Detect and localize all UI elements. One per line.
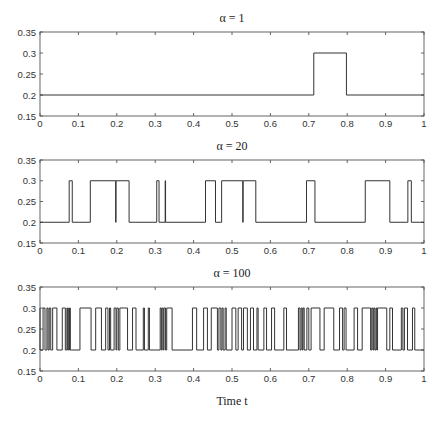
y-tick-label: 0.3 [23,48,36,59]
figure: α = 100.10.20.30.40.50.60.70.80.910.150.… [0,0,442,424]
x-tick-label: 0.2 [110,373,123,384]
panel-alpha-100: α = 10000.10.20.30.40.50.60.70.80.910.15… [18,266,427,384]
y-tick-label: 0.2 [23,90,36,101]
x-tick-label: 0.8 [341,118,354,129]
y-tick-label: 0.15 [18,238,37,249]
y-tick-label: 0.3 [23,175,36,186]
plot-frame [40,160,424,243]
x-tick-label: 0.9 [379,373,392,384]
x-tick-label: 0 [37,373,42,384]
x-tick-label: 0 [37,245,42,256]
x-tick-label: 0 [37,118,42,129]
x-tick-label: 0.4 [187,373,200,384]
x-tick-label: 0.8 [341,245,354,256]
y-tick-label: 0.15 [18,111,37,122]
x-tick-label: 0.5 [225,118,238,129]
x-axis-label: Time t [216,394,248,408]
x-tick-label: 0.1 [72,373,85,384]
step-signal-trace [40,53,424,95]
step-signal-trace [40,308,424,350]
x-tick-label: 0.4 [187,118,200,129]
y-tick-label: 0.25 [18,69,37,80]
x-tick-label: 0.4 [187,245,200,256]
x-tick-label: 0.3 [149,118,162,129]
plot-frame [40,32,424,116]
x-tick-label: 1 [421,118,426,129]
panel-title: α = 1 [219,11,244,25]
x-tick-label: 0.7 [302,118,315,129]
x-tick-label: 0.7 [302,245,315,256]
x-tick-label: 0.1 [72,245,85,256]
x-tick-label: 0.5 [225,373,238,384]
y-tick-label: 0.2 [23,345,36,356]
step-signal-trace [40,181,424,223]
x-tick-label: 0.9 [379,118,392,129]
y-tick-label: 0.2 [23,217,36,228]
y-tick-label: 0.25 [18,324,37,335]
x-tick-label: 0.2 [110,245,123,256]
panel-alpha-1: α = 100.10.20.30.40.50.60.70.80.910.150.… [18,11,427,129]
x-tick-label: 0.5 [225,245,238,256]
x-tick-label: 0.8 [341,373,354,384]
y-tick-label: 0.35 [18,155,37,166]
panel-alpha-20: α = 2000.10.20.30.40.50.60.70.80.910.150… [18,139,427,256]
y-tick-label: 0.35 [18,282,37,293]
x-tick-label: 1 [421,373,426,384]
x-tick-label: 0.1 [72,118,85,129]
x-tick-label: 0.2 [110,118,123,129]
y-tick-label: 0.3 [23,303,36,314]
x-tick-label: 0.6 [264,245,277,256]
y-tick-label: 0.25 [18,196,37,207]
x-tick-label: 0.6 [264,373,277,384]
x-tick-label: 0.3 [149,373,162,384]
x-tick-label: 0.7 [302,373,315,384]
panel-title: α = 100 [213,266,250,280]
x-tick-label: 0.9 [379,245,392,256]
y-tick-label: 0.15 [18,366,37,377]
panel-title: α = 20 [216,139,247,153]
y-tick-label: 0.35 [18,27,37,38]
x-tick-label: 0.3 [149,245,162,256]
x-tick-label: 0.6 [264,118,277,129]
x-tick-label: 1 [421,245,426,256]
